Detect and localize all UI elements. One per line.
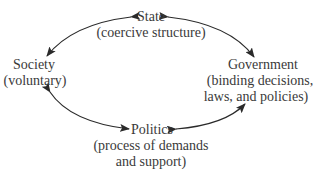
arrow-society-politics [50, 92, 129, 129]
node-politics-title: Politics [131, 122, 173, 137]
node-politics-subtitle-line2: and support) [116, 154, 187, 170]
node-government-subtitle-line1: (binding decisions, [207, 73, 314, 89]
node-politics: Politics (process of demands and support… [93, 122, 208, 170]
node-society-title: Society [13, 57, 55, 72]
node-state-subtitle: (coercive structure) [96, 25, 206, 41]
state-society-government-politics-diagram: State (coercive structure) Society (volu… [0, 0, 322, 179]
node-state-title: State [137, 9, 165, 24]
node-state: State (coercive structure) [96, 9, 206, 41]
node-government-subtitle-line2: laws, and policies) [204, 89, 309, 105]
node-politics-subtitle-line1: (process of demands [93, 138, 208, 154]
node-government-title: Government [228, 57, 298, 72]
node-society-subtitle: (voluntary) [4, 73, 67, 89]
node-government: Government (binding decisions, laws, and… [204, 57, 314, 105]
arrow-politics-government [176, 104, 245, 129]
node-society: Society (voluntary) [4, 57, 67, 89]
